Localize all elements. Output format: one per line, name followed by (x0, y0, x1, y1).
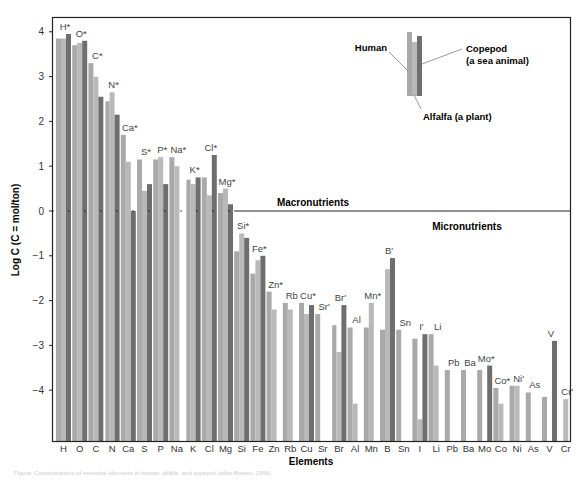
bar-h-0 (56, 39, 61, 441)
x-tick-label: Zn (269, 443, 280, 454)
x-tick-label: C (92, 443, 99, 454)
bar-b-0 (380, 330, 385, 441)
bar-as-0 (526, 392, 531, 441)
bar-n-2 (115, 115, 120, 441)
bar-ba-0 (461, 370, 466, 441)
legend-swatch-alfalfa (412, 42, 417, 96)
bar-h-2 (66, 34, 71, 441)
legend-label-copepod-sub: (a sea animal) (466, 55, 529, 66)
bar-label: Mn* (364, 290, 381, 301)
x-tick-label: Rb (284, 443, 296, 454)
bar-label: S* (141, 146, 151, 157)
bar-label: Sr' (319, 301, 331, 312)
x-tick-label: K (190, 443, 197, 454)
bar-mg-0 (218, 193, 223, 441)
y-axis-title: Log C (C = mol/ton) (10, 184, 21, 277)
legend-swatch-human (407, 32, 412, 96)
bar-rb-0 (283, 303, 288, 441)
bar-co-1 (498, 404, 503, 441)
bar-label: V (548, 328, 555, 339)
x-tick-label: Fe (252, 443, 263, 454)
bar-mn-1 (369, 303, 374, 441)
bar-cu-1 (304, 314, 309, 441)
bar-label: Br' (335, 292, 347, 303)
bar-cl-0 (202, 177, 207, 441)
x-tick-label: Mn (365, 443, 378, 454)
bar-label: Pb (448, 357, 460, 368)
x-tick-label: H (60, 443, 67, 454)
bar-ca-2 (131, 211, 136, 441)
group-gap (185, 17, 187, 441)
y-tick-label: 0 (38, 206, 44, 217)
x-tick-label: Br (334, 443, 344, 454)
y-tick-label: −3 (33, 340, 45, 351)
bar-label: As (529, 379, 540, 390)
bar-label: Sn (399, 317, 411, 328)
legend-swatch-copepod (417, 36, 422, 96)
x-tick-label: Na (171, 443, 184, 454)
bar-ca-1 (126, 162, 131, 441)
bar-mg-2 (228, 204, 233, 441)
bar-mn-0 (364, 327, 369, 441)
y-axis: 43210−1−2−3−4 (33, 26, 53, 395)
y-tick-label: −4 (33, 385, 45, 396)
x-tick-label: Ba (463, 443, 475, 454)
x-tick-label: B (384, 443, 390, 454)
x-tick-label: Sn (398, 443, 410, 454)
x-tick-label: Co (495, 443, 507, 454)
x-tick-label: Cr (561, 443, 571, 454)
bar-fe-1 (255, 260, 260, 441)
bar-label: Co* (494, 375, 510, 386)
bar-c-0 (88, 63, 93, 441)
x-tick-label: Cl (205, 443, 214, 454)
bar-label: H* (60, 21, 71, 32)
y-tick-label: 2 (38, 116, 44, 127)
bar-al-0 (348, 327, 353, 441)
bar-co-0 (493, 388, 498, 441)
bar-label: Zn* (268, 279, 283, 290)
bar-label: P* (157, 144, 167, 155)
bar-b-2 (390, 258, 395, 441)
bar-label: B' (385, 245, 393, 256)
figure-caption: Figure: Concentrations of essential elem… (14, 470, 574, 476)
x-tick-label: O (76, 443, 83, 454)
bar-s-1 (142, 191, 147, 441)
bar-label: Mg* (219, 176, 236, 187)
element-concentration-chart: H*O*C*N*Ca*S*P*Na*K*Cl*Mg*Si*Fe*Zn*RbCu*… (0, 0, 584, 482)
bar-k-2 (196, 177, 201, 441)
bar-mo-2 (487, 366, 492, 441)
bar-label: Si* (237, 220, 249, 231)
x-tick-label: Li (432, 443, 439, 454)
bar-ni-0 (510, 386, 515, 441)
x-tick-label: Ni (513, 443, 522, 454)
bar-label: C* (92, 50, 103, 61)
bar-zn-0 (267, 292, 272, 441)
bar-h-1 (61, 39, 66, 441)
x-tick-label: V (546, 443, 553, 454)
bar-b-1 (385, 269, 390, 441)
bar-li-0 (429, 334, 434, 441)
bar-label: O* (76, 28, 87, 39)
bar-al-1 (353, 404, 358, 441)
bar-cu-2 (309, 305, 314, 441)
bar-label: N* (108, 79, 119, 90)
legend-leader-human (389, 52, 408, 71)
bar-cl-1 (207, 195, 212, 441)
bar-label: Na* (170, 144, 186, 155)
bar-s-2 (147, 184, 152, 441)
y-tick-label: 4 (38, 26, 44, 37)
legend: Human Copepod (a sea animal) Alfalfa (a … (355, 32, 529, 122)
legend-label-human: Human (355, 42, 387, 53)
bar-c-2 (98, 97, 103, 441)
bar-label: Ba (464, 357, 476, 368)
bar-cu-0 (299, 303, 304, 441)
bar-n-1 (110, 92, 115, 441)
bar-label: Al (352, 314, 360, 325)
legend-label-alfalfa: Alfalfa (a plant) (423, 111, 492, 122)
bar-si-1 (239, 233, 244, 441)
x-tick-label: As (528, 443, 539, 454)
legend-leader-alfalfa (414, 95, 421, 109)
y-tick-label: 1 (38, 161, 44, 172)
bar-c-1 (93, 77, 98, 441)
x-tick-label: Pb (446, 443, 458, 454)
